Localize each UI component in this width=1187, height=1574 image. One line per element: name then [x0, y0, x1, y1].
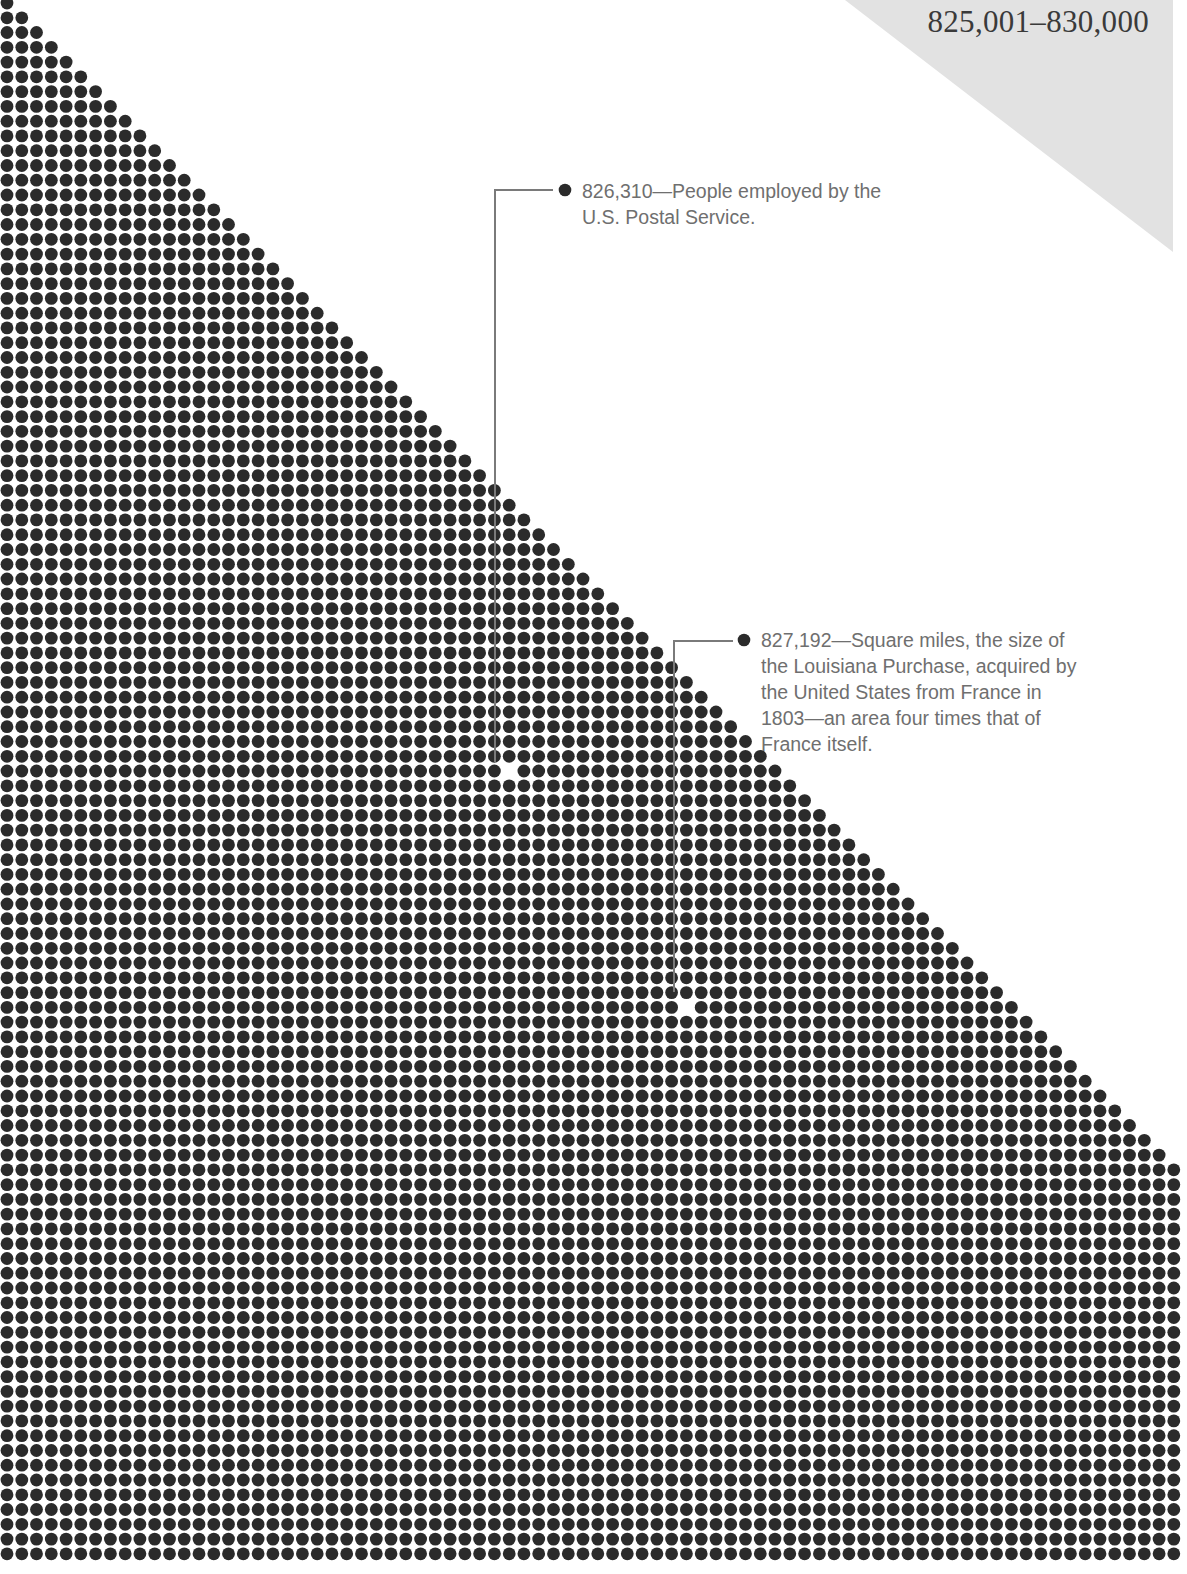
bullet-icon-827192	[738, 634, 751, 647]
annotation-line: the Louisiana Purchase, acquired by	[761, 653, 1151, 679]
range-title: 825,001–830,000	[928, 4, 1150, 40]
leader-lines	[0, 0, 1187, 1574]
bullet-icon-826310	[559, 184, 572, 197]
leader-line-826310	[495, 190, 553, 762]
annotation-line: 826,310—People employed by the	[582, 178, 962, 204]
annotation-line: U.S. Postal Service.	[582, 204, 962, 230]
annotation-line: 827,192—Square miles, the size of	[761, 627, 1151, 653]
annotation-826310: 826,310—People employed by the U.S. Post…	[582, 178, 962, 230]
annotation-line: France itself.	[761, 731, 1151, 757]
annotation-827192: 827,192—Square miles, the size of the Lo…	[761, 627, 1151, 757]
leader-line-827192	[674, 641, 733, 992]
annotation-line: the United States from France in	[761, 679, 1151, 705]
annotation-line: 1803—an area four times that of	[761, 705, 1151, 731]
